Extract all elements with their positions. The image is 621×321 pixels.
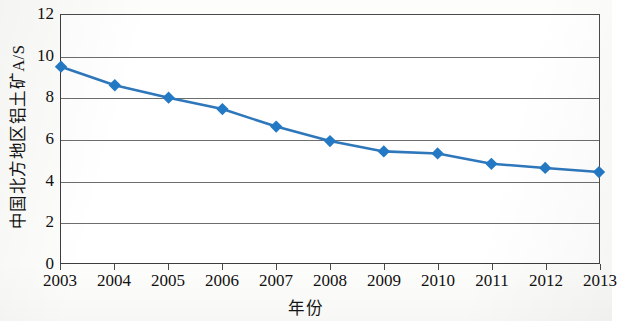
x-axis-tick-mark: [384, 264, 385, 270]
x-axis-tick-mark: [276, 264, 277, 270]
data-point-marker: [431, 147, 443, 159]
x-axis-tick-label: 2009: [354, 272, 414, 291]
data-point-marker: [539, 162, 551, 174]
x-axis-tick-label: 2005: [138, 272, 198, 291]
x-axis-tick-labels: 2003200420052006200720082009201020112012…: [0, 272, 612, 296]
x-axis-tick-label: 2011: [462, 272, 522, 291]
x-axis-tick-marks: [60, 264, 600, 271]
data-point-marker: [216, 103, 228, 115]
y-axis-tick-label: 6: [24, 130, 54, 147]
data-point-marker: [162, 92, 174, 104]
y-axis-tick-label: 10: [24, 47, 54, 64]
x-axis-tick-label: 2007: [246, 272, 306, 291]
x-axis-tick-label: 2003: [30, 272, 90, 291]
x-axis-tick-label: 2008: [300, 272, 360, 291]
data-point-marker: [55, 61, 67, 73]
x-axis-tick-mark: [330, 264, 331, 270]
x-axis-tick-label: 2010: [408, 272, 468, 291]
x-axis-tick-mark: [546, 264, 547, 270]
y-axis-tick-label: 12: [24, 5, 54, 22]
data-point-marker: [109, 79, 121, 91]
data-point-marker: [485, 158, 497, 170]
data-point-marker: [270, 120, 282, 132]
x-axis-tick-mark: [114, 264, 115, 270]
data-point-marker: [593, 166, 605, 178]
x-axis-tick-mark: [60, 264, 61, 270]
x-axis-tick-label: 2006: [192, 272, 252, 291]
x-axis-tick-mark: [222, 264, 223, 270]
y-axis-tick-label: 0: [24, 255, 54, 272]
x-axis-tick-mark: [600, 264, 601, 270]
x-axis-tick-label: 2013: [570, 272, 621, 291]
x-axis-tick-label: 2012: [516, 272, 576, 291]
data-point-marker: [378, 145, 390, 157]
x-axis-tick-mark: [492, 264, 493, 270]
data-point-marker: [324, 135, 336, 147]
x-axis-title: 年份: [0, 295, 612, 319]
y-axis-tick-label: 4: [24, 172, 54, 189]
series-line: [61, 67, 599, 172]
x-axis-tick-mark: [438, 264, 439, 270]
x-axis-tick-label: 2004: [84, 272, 144, 291]
y-axis-tick-label: 8: [24, 88, 54, 105]
x-axis-tick-mark: [168, 264, 169, 270]
y-axis-tick-label: 2: [24, 213, 54, 230]
data-series-line: [61, 15, 599, 263]
plot-area: [60, 14, 600, 264]
